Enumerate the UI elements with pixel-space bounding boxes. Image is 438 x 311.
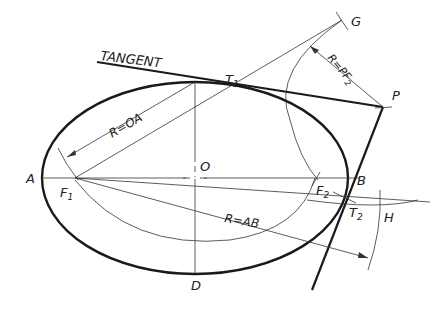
label-g: G [351, 14, 361, 29]
label-t1: T1 [225, 72, 239, 89]
label-p: P [392, 88, 400, 103]
ellipse-tangent-diagram: TANGENT T1 G P R=PF2 R=OA A F1 O F2 B T2… [0, 0, 438, 311]
label-f1: F1 [60, 185, 73, 202]
arrowhead [67, 150, 76, 157]
label-t2: T2 [349, 205, 363, 222]
arc-h-vertical [368, 190, 380, 270]
label-a: A [25, 171, 35, 186]
arc-through-h [307, 200, 418, 205]
line-f1-h [75, 178, 430, 202]
label-r-ab: R=AB [223, 211, 260, 231]
label-r-oa: R=OA [107, 110, 145, 140]
label-d: D [191, 278, 201, 293]
label-h: H [384, 210, 394, 225]
label-b: B [357, 173, 366, 188]
label-f2: F2 [316, 183, 329, 200]
g-tick [336, 12, 348, 30]
label-r-pf2: R=PF2 [323, 52, 357, 88]
label-o: O [200, 159, 210, 174]
arrowhead [358, 252, 368, 258]
